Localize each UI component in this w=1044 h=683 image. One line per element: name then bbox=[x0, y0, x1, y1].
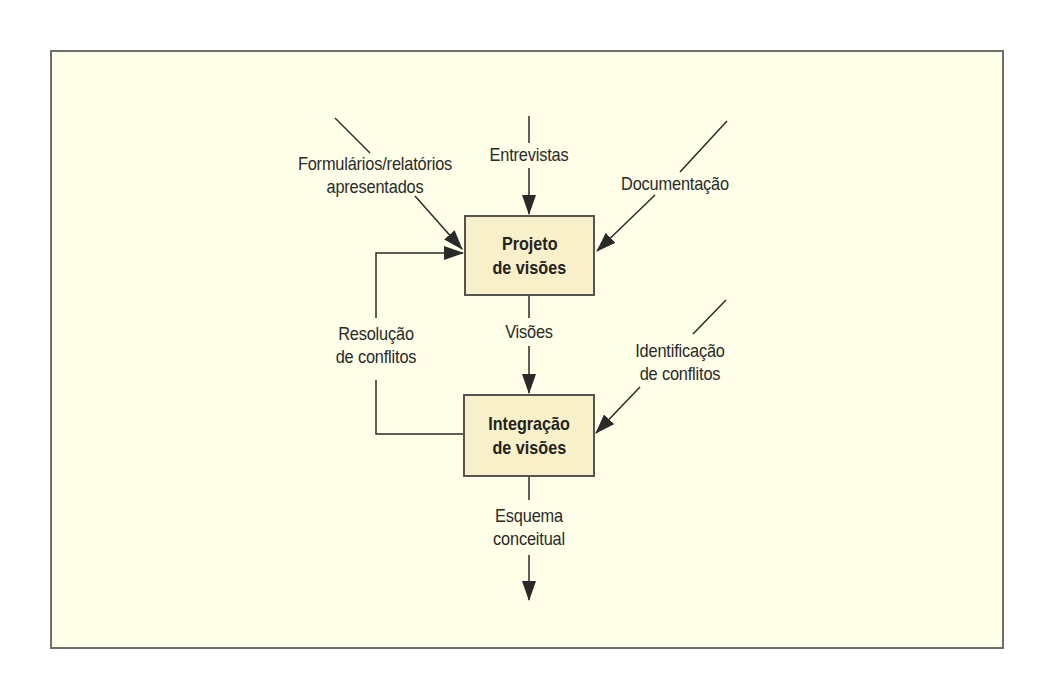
view-design-box: Projeto de visões bbox=[464, 215, 595, 296]
output-label-line1: Esquema bbox=[477, 504, 580, 527]
view-design-label-line1: Projeto bbox=[502, 232, 558, 256]
view-integration-label-line2: de visões bbox=[492, 436, 566, 460]
view-integration-label-line1: Integração bbox=[488, 412, 570, 436]
conflict-identification-arrow bbox=[596, 387, 640, 433]
conflict-resolution-loop-lower bbox=[376, 380, 463, 434]
output-label: Esquema conceitual bbox=[477, 504, 580, 550]
views-label: Visões bbox=[482, 320, 577, 343]
conflict-identification-line-upper bbox=[693, 300, 726, 334]
interviews-label-line1: Entrevistas bbox=[477, 143, 580, 166]
forms-line-upper bbox=[335, 118, 370, 153]
forms-label: Formulários/relatórios apresentados bbox=[280, 152, 469, 198]
conflict-identification-label-line2: de conflitos bbox=[616, 362, 745, 385]
documentation-line-upper bbox=[680, 121, 727, 172]
documentation-arrow bbox=[597, 195, 655, 251]
conflict-resolution-label: Resolução de conflitos bbox=[324, 322, 427, 368]
conflict-identification-label-line1: Identificação bbox=[616, 339, 745, 362]
forms-label-line1: Formulários/relatórios bbox=[280, 152, 469, 175]
conflict-identification-label: Identificação de conflitos bbox=[616, 339, 745, 385]
output-label-line2: conceitual bbox=[477, 527, 580, 550]
documentation-label: Documentação bbox=[611, 172, 740, 195]
forms-label-line2: apresentados bbox=[280, 175, 469, 198]
view-design-label-line2: de visões bbox=[493, 256, 567, 280]
conflict-resolution-arrow bbox=[376, 253, 463, 318]
conflict-resolution-label-line1: Resolução bbox=[324, 322, 427, 345]
conflict-resolution-label-line2: de conflitos bbox=[324, 345, 427, 368]
interviews-label: Entrevistas bbox=[477, 143, 580, 166]
view-integration-box: Integração de visões bbox=[463, 394, 595, 477]
documentation-label-line1: Documentação bbox=[611, 172, 740, 195]
views-label-line1: Visões bbox=[482, 320, 577, 343]
forms-arrow bbox=[415, 196, 462, 249]
